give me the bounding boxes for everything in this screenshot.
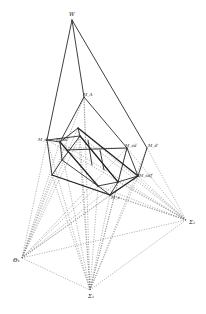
label-top-inner: M_A: [82, 92, 92, 97]
label-left: M_d: [37, 137, 47, 142]
diagram-figure: W M_A M_d M_ad M_cd M_d' M_cdf M_c Θ₁ Σ₁…: [0, 0, 206, 314]
label-centre-bottom: Σ₁: [87, 293, 94, 299]
label-right: M_d': [147, 143, 158, 148]
label-bottom: M_c: [110, 195, 120, 200]
label-centre-right: Σ₂: [188, 219, 195, 225]
label-apex: W: [69, 11, 76, 17]
label-right-inner: M_cd: [124, 143, 137, 148]
perspective-diagram: W M_A M_d M_ad M_cd M_d' M_cdf M_c Θ₁ Σ₁…: [0, 0, 206, 314]
label-centre-left: Θ₁: [13, 257, 20, 263]
label-left-inner: M_ad: [55, 137, 68, 142]
label-right-lower: M_cdf: [138, 173, 153, 178]
vertex-labels: W M_A M_d M_ad M_cd M_d' M_cdf M_c Θ₁ Σ₁…: [13, 11, 195, 299]
